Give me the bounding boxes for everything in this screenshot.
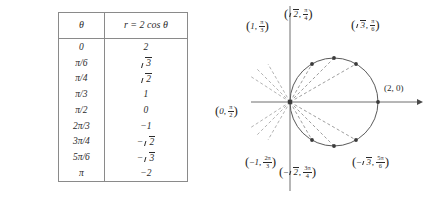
label-sqrt3-pi6: (3, π6): [351, 18, 380, 32]
label-2-0: (2, 0): [384, 84, 404, 93]
label-negsqrt2-3pi4: (−2, 3π4): [279, 165, 316, 179]
cell-r: 1: [104, 86, 187, 102]
table-row: π/2 0: [59, 102, 187, 118]
table-row: π/4 2: [59, 71, 187, 87]
cell-r: 2: [104, 71, 187, 87]
polar-plot-svg: [206, 0, 436, 197]
polar-curve-figure: θ r = 2 cos θ 0 2 π/6 3 π/4 2 π/3 1 π/2 …: [0, 0, 436, 197]
cell-r: −1: [104, 118, 187, 134]
cell-r: 2: [104, 38, 187, 54]
point-2-0: [376, 100, 380, 104]
cell-theta: π/3: [59, 86, 104, 102]
point-sqrt2-pi4: [332, 56, 336, 60]
cell-theta: 5π/6: [59, 149, 104, 165]
label-0-pi2: (0, π2): [215, 104, 238, 118]
point-1-pi3: [310, 62, 314, 66]
label-sqrt2-pi4: (2, π4): [284, 7, 313, 21]
point-neg1-2pi3: [310, 138, 314, 142]
table-row: 2π/3 −1: [59, 118, 187, 134]
polar-plot: (1, π3) (2, π4) (3, π6) (2, 0) (0, π2) (…: [206, 0, 436, 197]
cell-theta: 0: [59, 38, 104, 54]
table-row: 3π/4 −2: [59, 134, 187, 150]
table-row: π −2: [59, 165, 187, 181]
cell-theta: π/6: [59, 55, 104, 71]
values-table: θ r = 2 cos θ 0 2 π/6 3 π/4 2 π/3 1 π/2 …: [59, 13, 187, 181]
cell-r: 3: [104, 55, 187, 71]
cell-theta: 2π/3: [59, 118, 104, 134]
table-row: 5π/6 −3: [59, 149, 187, 165]
values-table-container: θ r = 2 cos θ 0 2 π/6 3 π/4 2 π/3 1 π/2 …: [58, 12, 188, 182]
label-neg1-2pi3: (−1, 2π3): [245, 155, 276, 169]
table-header-theta: θ: [59, 13, 104, 38]
label-1-pi3: (1, π3): [246, 19, 269, 33]
cell-r: −2: [104, 165, 187, 181]
cell-theta: π/2: [59, 102, 104, 118]
point-0-pi2: [288, 100, 293, 105]
table-row: π/3 1: [59, 86, 187, 102]
cell-theta: 3π/4: [59, 134, 104, 150]
table-row: π/6 3: [59, 55, 187, 71]
dashed-rays-upper: [290, 58, 356, 102]
table-row: 0 2: [59, 38, 187, 54]
cell-r: −2: [104, 134, 187, 150]
dashed-rays-lower: [290, 102, 356, 146]
cell-theta: π/4: [59, 71, 104, 87]
label-negsqrt3-5pi6: (−3, 5π6): [352, 155, 389, 169]
cell-r: 0: [104, 102, 187, 118]
point-negsqrt2-3pi4: [332, 144, 336, 148]
point-negsqrt3-5pi6: [354, 138, 358, 142]
table-header-row: θ r = 2 cos θ: [59, 13, 187, 38]
cell-r: −3: [104, 149, 187, 165]
cell-theta: π: [59, 165, 104, 181]
table-header-r: r = 2 cos θ: [104, 13, 187, 38]
point-sqrt3-pi6: [354, 62, 358, 66]
